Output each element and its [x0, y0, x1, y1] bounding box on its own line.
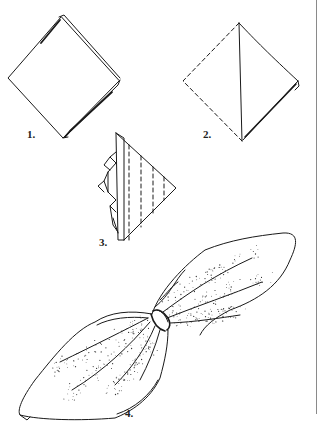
stipple-dot: [52, 367, 53, 368]
stipple-dot: [121, 378, 122, 379]
stipple-dot: [211, 277, 212, 278]
stipple-dot: [230, 317, 231, 318]
stipple-dot: [74, 399, 75, 400]
stipple-dot: [210, 318, 211, 319]
step-3-label: 3.: [99, 236, 107, 248]
stipple-dot: [125, 343, 126, 344]
stipple-dot: [138, 362, 139, 363]
stipple-dot: [67, 359, 68, 360]
stipple-dot: [196, 311, 197, 312]
stipple-dot: [121, 390, 122, 391]
stipple-dot: [141, 328, 142, 329]
stipple-dot: [139, 355, 140, 356]
stipple-dot: [178, 320, 179, 321]
stipple-dot: [232, 294, 233, 295]
stipple-dot: [205, 301, 206, 302]
stipple-dot: [226, 284, 227, 285]
stipple-dot: [67, 367, 68, 368]
stipple-dot: [196, 317, 197, 318]
stipple-dot: [107, 365, 108, 366]
stipple-dot: [208, 313, 209, 314]
stipple-dot: [134, 365, 135, 366]
stipple-dot: [209, 269, 210, 270]
stipple-dot: [205, 296, 206, 297]
step-3-pleated-triangle: [98, 133, 176, 240]
stipple-dot: [149, 341, 150, 342]
stipple-dot: [180, 309, 181, 310]
stipple-dot: [189, 283, 190, 284]
stipple-dot: [118, 383, 119, 384]
stipple-dot: [235, 260, 236, 261]
stipple-dot: [115, 389, 116, 390]
stipple-dot: [206, 292, 207, 293]
stipple-dot: [210, 309, 211, 310]
stipple-dot: [192, 280, 193, 281]
stipple-dot: [125, 346, 126, 347]
stipple-dot: [200, 284, 201, 285]
stipple-dot: [121, 330, 122, 331]
stipple-dot: [140, 330, 141, 331]
stipple-dot: [184, 287, 185, 288]
stipple-dot: [111, 368, 112, 369]
stipple-dot: [80, 392, 81, 393]
stipple-dot: [224, 267, 225, 268]
stipple-dot: [196, 279, 197, 280]
stipple-dot: [150, 352, 151, 353]
stipple-dot: [124, 339, 125, 340]
stipple-dot: [207, 271, 208, 272]
stipple-dot: [208, 313, 209, 314]
stipple-dot: [196, 318, 197, 319]
stipple-dot: [58, 366, 59, 367]
stipple-dot: [233, 307, 234, 308]
stipple-dot: [127, 373, 128, 374]
stipple-dot: [222, 316, 223, 317]
stipple-dot: [191, 313, 192, 314]
stipple-dot: [202, 295, 203, 296]
napkin-illustration: [0, 0, 321, 432]
stipple-dot: [134, 367, 135, 368]
stipple-dot: [207, 321, 208, 322]
stipple-dot: [194, 306, 195, 307]
stipple-dot: [115, 394, 116, 395]
stipple-dot: [260, 280, 261, 281]
stipple-dot: [145, 340, 146, 341]
step-1-folded-square: [8, 15, 120, 138]
stipple-dot: [130, 374, 131, 375]
stipple-dot: [253, 283, 254, 284]
stipple-dot: [223, 296, 224, 297]
stipple-dot: [199, 286, 200, 287]
stipple-dot: [134, 339, 135, 340]
stipple-dot: [127, 351, 128, 352]
stipple-dot: [83, 377, 84, 378]
stipple-dot: [135, 364, 136, 365]
stipple-dot: [175, 297, 176, 298]
stipple-dot: [157, 350, 158, 351]
stipple-dot: [84, 355, 85, 356]
stipple-dot: [141, 325, 142, 326]
stipple-dot: [143, 337, 144, 338]
stipple-dot: [136, 328, 137, 329]
stipple-dot: [193, 307, 194, 308]
stipple-dot: [195, 299, 196, 300]
stipple-dot: [101, 351, 102, 352]
stipple-dot: [177, 325, 178, 326]
stipple-dot: [240, 254, 241, 255]
stipple-dot: [138, 332, 139, 333]
stipple-dot: [137, 372, 138, 373]
stipple-dot: [133, 331, 134, 332]
stipple-dot: [212, 323, 213, 324]
stipple-dot: [131, 332, 132, 333]
stipple-dot: [213, 278, 214, 279]
stipple-dot: [130, 327, 131, 328]
stipple-dot: [211, 296, 212, 297]
stipple-dot: [148, 328, 149, 329]
stipple-dot: [73, 393, 74, 394]
stipple-dot: [75, 366, 76, 367]
stipple-dot: [99, 360, 100, 361]
stipple-dot: [76, 394, 77, 395]
stipple-dot: [240, 306, 241, 307]
stipple-dot: [105, 347, 106, 348]
stipple-dot: [143, 334, 144, 335]
stipple-dot: [250, 279, 251, 280]
stipple-dot: [86, 362, 87, 363]
